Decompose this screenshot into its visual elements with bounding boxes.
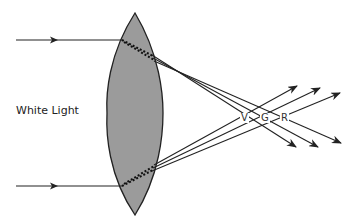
- green-focus-label: G: [260, 113, 270, 123]
- dispersed-rays-bottom: [152, 86, 340, 171]
- convex-lens: [107, 13, 163, 215]
- white-light-label: White Light: [16, 104, 79, 117]
- red-focus-label: R: [280, 113, 289, 123]
- dispersed-rays-top: [152, 55, 341, 147]
- violet-focus-label: V: [240, 113, 249, 123]
